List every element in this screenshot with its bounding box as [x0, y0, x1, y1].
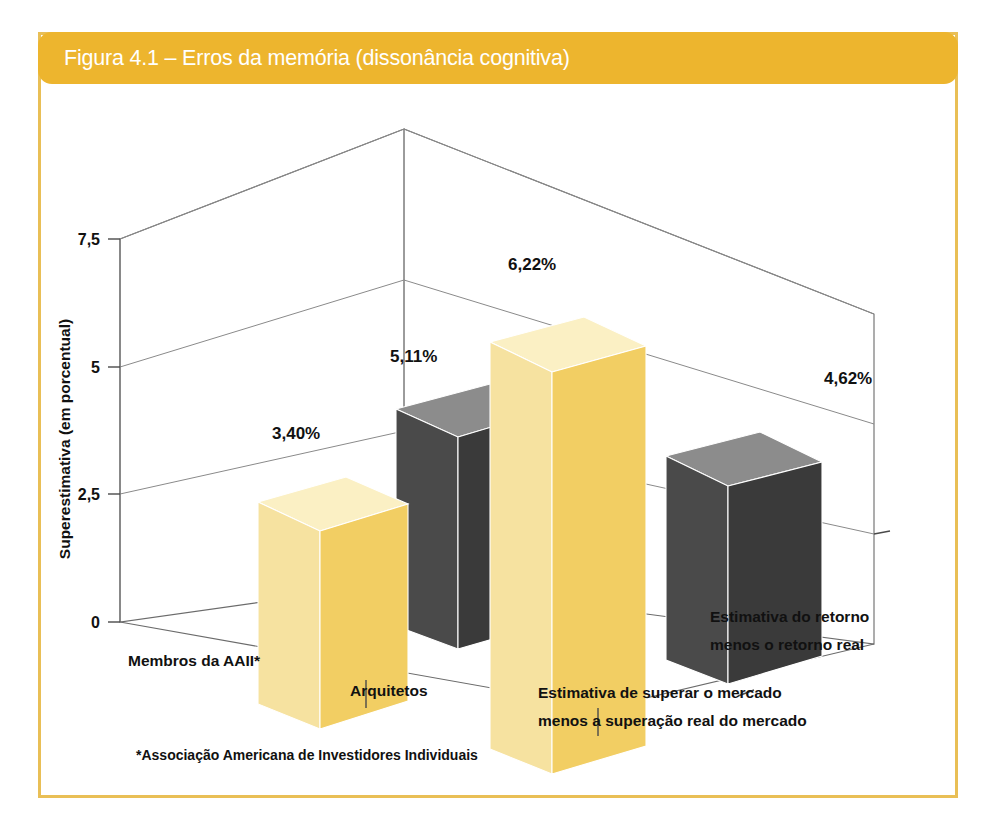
bar-aaii-yellow-front: [258, 502, 320, 729]
y-axis-title: Superestimativa (em porcentual): [56, 319, 73, 559]
figure-footnote: *Associação Americana de Investidores In…: [136, 747, 478, 763]
chart-3d-bar-plot: 7,5 5 2,5 0 Superestimativa (em porcentu…: [38, 84, 958, 798]
value-label-aaii-dark: 5,11%: [390, 347, 437, 366]
x-axis-label-aaii: Membros da AAII*: [128, 652, 261, 669]
depth-label-retorno-line1: Estimativa do retorno: [710, 608, 869, 625]
depth-label-retorno-line2: menos o retorno real: [710, 636, 864, 653]
figure-container: Figura 4.1 – Erros da memória (dissonânc…: [0, 0, 994, 832]
depth-label-mercado-line2: menos a superação real do mercado: [538, 712, 807, 729]
y-tick-label-2-5: 2,5: [78, 486, 100, 503]
value-label-arquitetos-yellow: 6,22%: [508, 255, 556, 274]
y-tick-label-5: 5: [91, 359, 100, 376]
y-tick-label-0: 0: [91, 614, 100, 631]
bar-arquitetos-yellow: [490, 317, 646, 774]
bar-arquitetos-yellow-front: [490, 342, 552, 774]
x-axis-label-arquitetos: Arquitetos: [350, 682, 428, 699]
depth-tick-retorno: [874, 531, 890, 534]
y-axis: 7,5 5 2,5 0 Superestimativa (em porcentu…: [56, 231, 120, 631]
depth-label-mercado-line1: Estimativa de superar o mercado: [538, 684, 782, 701]
value-label-aaii-yellow: 3,40%: [272, 424, 320, 443]
bar-arquitetos-yellow-side: [552, 346, 646, 774]
figure-title-banner: Figura 4.1 – Erros da memória (dissonânc…: [38, 32, 958, 84]
y-tick-label-7-5: 7,5: [78, 231, 100, 248]
value-label-arquitetos-dark: 4,62%: [824, 369, 872, 388]
figure-title-text: Figura 4.1 – Erros da memória (dissonânc…: [38, 46, 570, 71]
